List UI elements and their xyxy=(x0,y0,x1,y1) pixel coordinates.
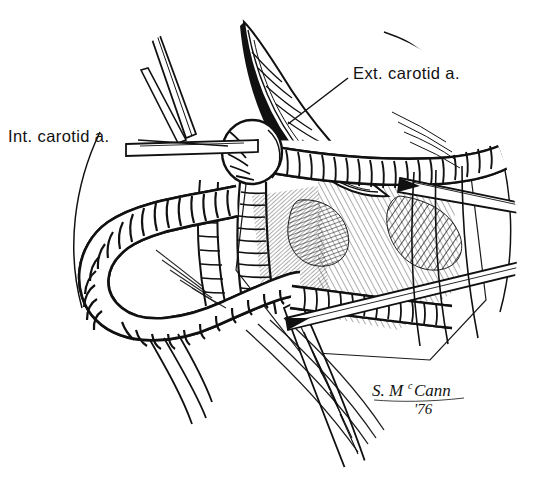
label-int-carotid-a: Int. carotid a. xyxy=(8,128,109,145)
medical-illustration-figure: Int. carotid a. Ext. carotid a. S. M c C… xyxy=(0,0,544,489)
retractor-instrument-upper-left xyxy=(141,14,196,143)
label-ext-carotid-a: Ext. carotid a. xyxy=(353,65,460,82)
illustration-artwork xyxy=(0,0,544,489)
